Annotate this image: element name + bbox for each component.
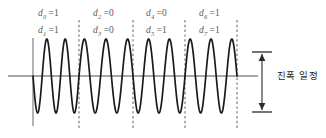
bit-label-d1: d1 =1 bbox=[38, 25, 59, 37]
bit-index: 1 bbox=[43, 30, 46, 37]
bit-index: 4 bbox=[151, 13, 154, 20]
bit-value: 1 bbox=[215, 8, 220, 18]
bit-value: 1 bbox=[54, 25, 59, 35]
bit-label-d3: d3 =0 bbox=[93, 25, 114, 37]
figure-canvas: d0 =1 d2 =0 d4 =0 d6 =1 d1 =1 d3 =0 d5 =… bbox=[0, 0, 326, 138]
bit-value: 1 bbox=[215, 25, 220, 35]
bit-label-d6: d6 =1 bbox=[199, 8, 220, 20]
amplitude-arrowhead-top bbox=[259, 54, 266, 61]
bit-label-d5: d5 =1 bbox=[146, 25, 167, 37]
bit-index: 2 bbox=[98, 13, 101, 20]
bit-value: 0 bbox=[109, 25, 114, 35]
bit-index: 3 bbox=[98, 30, 101, 37]
bit-index: 7 bbox=[204, 30, 207, 37]
bit-value: 1 bbox=[162, 25, 167, 35]
bit-value: 0 bbox=[109, 8, 114, 18]
bit-label-d7: d7 =1 bbox=[199, 25, 220, 37]
bit-index: 5 bbox=[151, 30, 154, 37]
amplitude-arrowhead-bottom bbox=[259, 103, 266, 110]
bit-label-d4: d4 =0 bbox=[146, 8, 167, 20]
bit-index: 6 bbox=[204, 13, 207, 20]
bit-label-d2: d2 =0 bbox=[93, 8, 114, 20]
bit-value: 0 bbox=[162, 8, 167, 18]
amplitude-arrow bbox=[252, 52, 272, 112]
bit-label-d0: d0 =1 bbox=[38, 8, 59, 20]
bit-value: 1 bbox=[54, 8, 59, 18]
bit-index: 0 bbox=[43, 13, 46, 20]
amplitude-caption: 진폭 일정 bbox=[277, 68, 318, 82]
